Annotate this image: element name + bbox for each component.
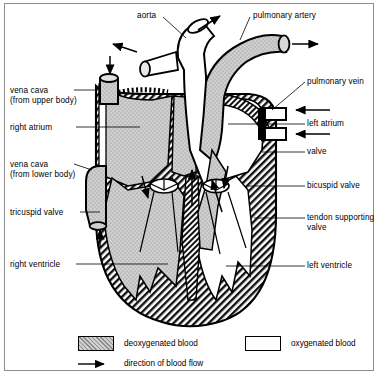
pulmonary-artery-opening	[279, 35, 290, 52]
vena-cava-inferior-opening	[90, 222, 107, 230]
label-tendon-supporting-valve: tendon supporting valve	[307, 213, 374, 233]
label-left-atrium: left atrium	[307, 119, 344, 129]
label-left-ventricle: left ventricle	[307, 261, 352, 271]
legend-swatch-deoxygenated	[78, 336, 114, 351]
label-bicuspid-valve: bicuspid valve	[307, 181, 360, 191]
label-valve: valve	[307, 147, 327, 157]
label-vena-cava-upper: vena cava (from upper body)	[10, 86, 77, 106]
aortic-branch-opening	[140, 61, 150, 76]
leader-pulmonary-artery	[240, 17, 250, 40]
leader-pulmonary-vein	[272, 82, 305, 110]
label-vena-cava-lower: vena cava (from lower body)	[10, 160, 75, 180]
leader-vena-cava-lower	[74, 164, 92, 170]
label-pulmonary-artery: pulmonary artery	[253, 11, 316, 21]
legend-label-oxygenated: oxygenated blood	[291, 339, 356, 349]
leader-aorta	[163, 17, 186, 38]
vena-cava-inferior	[86, 166, 106, 226]
label-right-ventricle: right ventricle	[10, 260, 60, 270]
legend-swatch-oxygenated	[245, 336, 281, 351]
label-right-atrium: right atrium	[10, 123, 52, 133]
vena-cava-superior-opening	[100, 74, 118, 82]
legend-label-flow: direction of blood flow	[124, 359, 203, 369]
arrow-out-aortic-branch	[113, 44, 137, 52]
label-pulmonary-vein: pulmonary vein	[307, 77, 364, 87]
label-tricuspid-valve: tricuspid valve	[10, 208, 63, 218]
legend-label-deoxygenated: deoxygenated blood	[124, 339, 198, 349]
label-aorta: aorta	[137, 11, 156, 21]
